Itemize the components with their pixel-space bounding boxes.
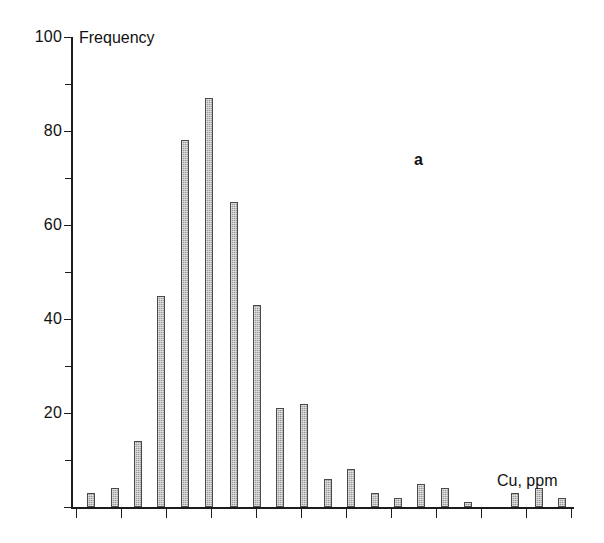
bar bbox=[300, 404, 308, 507]
bar bbox=[441, 488, 449, 507]
y-axis-title: Frequency bbox=[79, 30, 155, 46]
bar bbox=[324, 479, 332, 507]
bar bbox=[371, 493, 379, 507]
histogram-figure: 20406080100 Frequency Cu, ppm a bbox=[0, 0, 604, 543]
bar bbox=[87, 493, 95, 507]
panel-label: a bbox=[414, 152, 423, 168]
bar bbox=[417, 484, 425, 508]
bar bbox=[394, 498, 402, 507]
bar bbox=[181, 140, 189, 507]
bar bbox=[511, 493, 519, 507]
bar bbox=[230, 202, 238, 508]
bar bbox=[276, 408, 284, 507]
bar bbox=[347, 469, 355, 507]
bar bbox=[464, 502, 472, 507]
bar bbox=[253, 305, 261, 507]
bar bbox=[134, 441, 142, 507]
bar bbox=[157, 296, 165, 508]
x-axis-title: Cu, ppm bbox=[497, 473, 557, 489]
bar bbox=[205, 98, 213, 507]
bar bbox=[111, 488, 119, 507]
bar bbox=[558, 498, 566, 507]
bar-series bbox=[0, 0, 604, 543]
bar bbox=[535, 488, 543, 507]
